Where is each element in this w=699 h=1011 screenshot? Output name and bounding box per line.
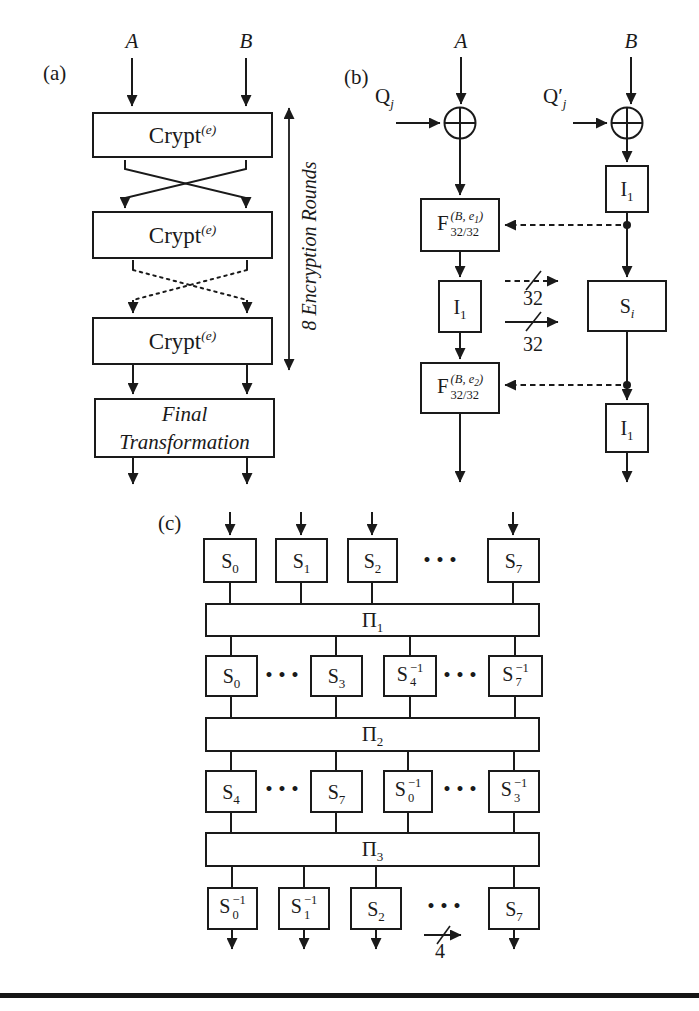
- sbox-row1-s0: S0: [203, 538, 257, 583]
- row1-to-pi1-stubs: [230, 583, 513, 603]
- crypt-box-3: Crypt(e): [92, 317, 273, 365]
- sbox-row1-s7: S7: [487, 538, 540, 583]
- sbox-row1-s1: S1: [275, 538, 328, 583]
- f-function-box-2: F(B, e2)32/32: [420, 362, 500, 414]
- key-sub: j: [563, 96, 567, 111]
- crypt-sup: (e): [201, 222, 216, 237]
- final-transformation-box: Final Transformation: [94, 398, 275, 458]
- sbox-row3-s7: S7: [310, 770, 363, 813]
- sbox-row2-s7-inv: S−17: [488, 655, 543, 697]
- final-line2: Transformation: [119, 428, 250, 456]
- row2-to-pi2-stubs: [231, 697, 515, 717]
- f-base: F: [437, 211, 449, 235]
- key-base: Q: [375, 84, 390, 108]
- ellipsis-row3-right: •••: [440, 780, 484, 798]
- panel-b-label: (b): [344, 66, 369, 89]
- junction-dot-top: [623, 221, 631, 229]
- cross-arrow-solid-rl: [125, 160, 246, 208]
- i1-box-right-top: I1: [605, 165, 649, 213]
- ellipsis-row3-left: •••: [262, 780, 306, 798]
- panel-b-input-a: A: [441, 30, 481, 53]
- sbox-row3-s0-inv: S−10: [383, 770, 433, 813]
- crypt-sup: (e): [201, 122, 216, 137]
- ellipsis-row2-left: •••: [262, 666, 306, 684]
- bottom-rule: [0, 993, 699, 998]
- final-line1: Final: [119, 400, 250, 428]
- crypt-label: Crypt: [149, 123, 201, 148]
- bus-width-label-top: 32: [515, 287, 551, 309]
- key-base: Q′: [543, 84, 563, 108]
- rounds-label: 8 Encryption Rounds: [298, 136, 322, 356]
- f-sub: 32/32: [451, 388, 479, 402]
- subkey-label-left: Qj: [375, 85, 394, 108]
- f-sup: (B, e2): [451, 372, 484, 388]
- ellipsis-row1: •••: [420, 551, 464, 569]
- i1-box-right-bottom: I1: [605, 403, 649, 453]
- crypt-label: Crypt: [149, 223, 201, 248]
- f-sup: (B, e1): [451, 209, 484, 225]
- panel-a-input-a: A: [112, 30, 152, 53]
- sbox-row3-s4: S4: [205, 770, 257, 813]
- s-sub: i: [631, 306, 635, 321]
- crypt-box-1: Crypt(e): [92, 112, 273, 158]
- figure-canvas: (a) A B Crypt(e) Crypt(e) Crypt(e) Final…: [0, 0, 699, 1011]
- f-base: F: [437, 374, 449, 398]
- junction-dot-bottom: [623, 381, 631, 389]
- i1-sub: 1: [460, 307, 467, 322]
- xor-icon-left: [445, 108, 476, 139]
- pi1-to-row2-stubs: [231, 637, 515, 655]
- permutation-box-pi3: Π3: [205, 832, 540, 867]
- crypt-label: Crypt: [149, 329, 201, 354]
- key-sub: j: [390, 96, 394, 111]
- f-function-box-1: F(B, e1)32/32: [420, 198, 500, 252]
- panel-b-input-b: B: [611, 30, 651, 53]
- sbox-row4-s2: S2: [350, 887, 402, 930]
- sbox-row3-s3-inv: S−13: [488, 770, 540, 813]
- sbox-row4-s7: S7: [488, 887, 540, 930]
- crypt-sup: (e): [201, 328, 216, 343]
- bus-width-label-4: 4: [428, 940, 452, 962]
- sbox-row4-s0-inv: S−10: [207, 887, 258, 930]
- pi3-to-row4-stubs: [232, 867, 514, 887]
- ellipsis-row4: •••: [424, 897, 468, 915]
- xor-icon-right: [612, 108, 643, 139]
- panel-a-input-b: B: [226, 30, 266, 53]
- subkey-label-right: Q′j: [543, 85, 566, 108]
- f-sub: 32/32: [451, 225, 479, 239]
- crypt-box-2: Crypt(e): [92, 211, 273, 259]
- permutation-box-pi1: Π1: [205, 603, 540, 637]
- ellipsis-row2-right: •••: [440, 666, 484, 684]
- si-box: Si: [587, 280, 667, 332]
- sbox-row2-s3: S3: [310, 655, 363, 697]
- i1-sub: 1: [627, 189, 634, 204]
- panel-a-label: (a): [43, 62, 66, 85]
- sbox-row4-s1-inv: S−11: [278, 887, 330, 930]
- panel-c-label: (c): [158, 512, 181, 535]
- bus-width-label-bottom: 32: [515, 333, 551, 355]
- permutation-box-pi2: Π2: [205, 717, 540, 752]
- i1-sub: 1: [627, 428, 634, 443]
- s-base: S: [620, 295, 631, 317]
- sbox-row1-s2: S2: [347, 538, 398, 583]
- pi2-to-row3-stubs: [231, 752, 514, 770]
- sbox-row2-s0: S0: [205, 655, 258, 697]
- row3-to-pi3-stubs: [231, 813, 514, 832]
- sbox-row2-s4-inv: S−14: [383, 655, 437, 697]
- i1-box-left: I1: [438, 280, 482, 333]
